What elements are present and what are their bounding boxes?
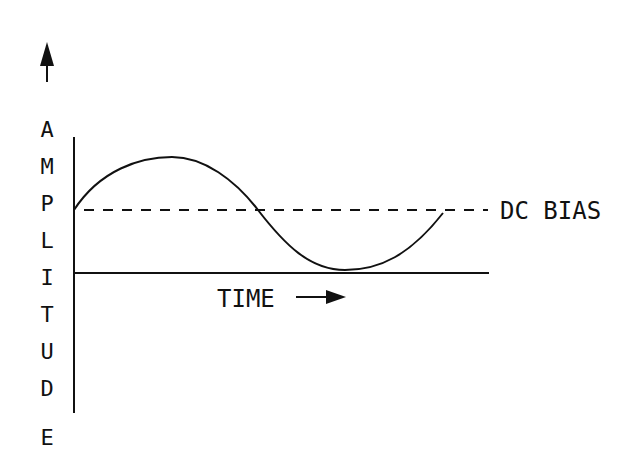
dc-bias-label: DC BIAS [500, 197, 601, 225]
svg-text:A: A [40, 117, 53, 142]
svg-text:D: D [40, 376, 53, 401]
right-arrow-icon [296, 290, 346, 304]
amplitude-time-diagram: A M P L I T U D E DC BIAS TIME [0, 0, 640, 459]
svg-text:P: P [40, 191, 53, 216]
up-arrow-icon [40, 42, 54, 82]
svg-text:T: T [40, 302, 53, 327]
y-axis-label: A M P L I T U D E [40, 117, 53, 450]
svg-text:M: M [40, 154, 53, 179]
svg-text:U: U [40, 339, 53, 364]
svg-text:L: L [40, 228, 53, 253]
time-label: TIME [217, 285, 275, 313]
sine-wave [74, 157, 443, 270]
svg-text:E: E [40, 425, 53, 450]
svg-text:I: I [40, 265, 53, 290]
